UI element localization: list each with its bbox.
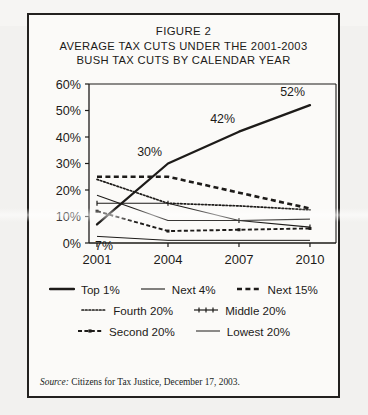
legend-row-3: Second 20%Lowest 20% xyxy=(47,321,320,342)
series-line xyxy=(97,236,310,240)
solid-marker-swatch-icon xyxy=(193,305,219,315)
data-label: 30% xyxy=(137,144,162,158)
figure-box: FIGURE 2 AVERAGE TAX CUTS UNDER THE 2001… xyxy=(27,13,340,398)
y-tick-label: 30% xyxy=(56,157,81,171)
solid-marker-line-icon xyxy=(193,305,219,315)
legend-label: Fourth 20% xyxy=(113,304,173,317)
solid-thick-line-icon xyxy=(49,284,75,294)
data-label: 42% xyxy=(210,111,235,125)
dashdot-swatch-icon xyxy=(77,326,103,336)
legend-label: Second 20% xyxy=(109,325,175,338)
solid-light-swatch-icon xyxy=(195,326,221,336)
dashed-bold-line-icon xyxy=(236,284,262,294)
legend-item-lowest-20[interactable]: Lowest 20% xyxy=(195,325,290,338)
source-prefix: Source: xyxy=(40,377,69,387)
y-tick-label: 60% xyxy=(56,77,81,91)
source-text: Citizens for Tax Justice, December 17, 2… xyxy=(69,377,240,387)
figure-title: FIGURE 2 AVERAGE TAX CUTS UNDER THE 2001… xyxy=(29,15,338,68)
x-tick-label: 2010 xyxy=(296,252,325,267)
legend-item-fourth-20[interactable]: Fourth 20% xyxy=(81,304,173,317)
series-marker xyxy=(308,226,311,229)
source-note: Source: Citizens for Tax Justice, Decemb… xyxy=(40,377,240,387)
title-line-1: FIGURE 2 xyxy=(29,24,338,39)
x-tick-label: 2007 xyxy=(225,252,254,267)
y-tick-label: 40% xyxy=(56,130,81,144)
series-marker xyxy=(96,209,99,212)
dashed-bold-swatch-icon xyxy=(236,284,262,294)
x-tick-label: 2004 xyxy=(154,252,183,267)
legend-label: Next 15% xyxy=(268,283,318,296)
line-chart: 0%10%20%30%40%50%60%20012004200720107%30… xyxy=(29,72,342,277)
legend-label: Middle 20% xyxy=(225,304,286,317)
series-line xyxy=(97,179,310,209)
dotted-fine-line-icon xyxy=(81,305,107,315)
solid-thin-line-icon xyxy=(140,284,166,294)
legend-item-next-4[interactable]: Next 4% xyxy=(140,283,216,296)
series-marker xyxy=(237,228,240,231)
series-marker xyxy=(166,229,169,232)
legend-row-1: Top 1%Next 4%Next 15% xyxy=(47,279,320,300)
title-line-3: BUSH TAX CUTS BY CALENDAR YEAR xyxy=(29,53,338,68)
legend-label: Next 4% xyxy=(172,283,216,296)
x-tick-label: 2001 xyxy=(83,252,112,267)
solid-thick-swatch-icon xyxy=(49,284,75,294)
solid-light-line-icon xyxy=(195,326,221,336)
chart-legend: Top 1%Next 4%Next 15% Fourth 20%Middle 2… xyxy=(29,279,338,342)
y-tick-label: 50% xyxy=(56,104,81,118)
legend-item-second-20[interactable]: Second 20% xyxy=(77,325,175,338)
title-line-2: AVERAGE TAX CUTS UNDER THE 2001-2003 xyxy=(29,39,338,54)
chart-plot-area: 0%10%20%30%40%50%60%20012004200720107%30… xyxy=(29,72,342,277)
legend-row-2: Fourth 20%Middle 20% xyxy=(47,300,320,321)
dashdot-line-icon xyxy=(77,326,103,336)
solid-thin-swatch-icon xyxy=(140,284,166,294)
legend-item-middle-20[interactable]: Middle 20% xyxy=(193,304,286,317)
data-label: 7% xyxy=(95,239,113,253)
y-tick-label: 0% xyxy=(63,236,81,250)
legend-label: Lowest 20% xyxy=(227,325,290,338)
legend-item-next-15[interactable]: Next 15% xyxy=(236,283,318,296)
data-label: 52% xyxy=(280,85,305,99)
legend-item-top-1[interactable]: Top 1% xyxy=(49,283,120,296)
dotted-fine-swatch-icon xyxy=(81,305,107,315)
legend-label: Top 1% xyxy=(81,283,120,296)
series-line xyxy=(97,211,310,231)
y-tick-label: 20% xyxy=(56,183,81,197)
y-tick-label: 10% xyxy=(56,210,81,224)
